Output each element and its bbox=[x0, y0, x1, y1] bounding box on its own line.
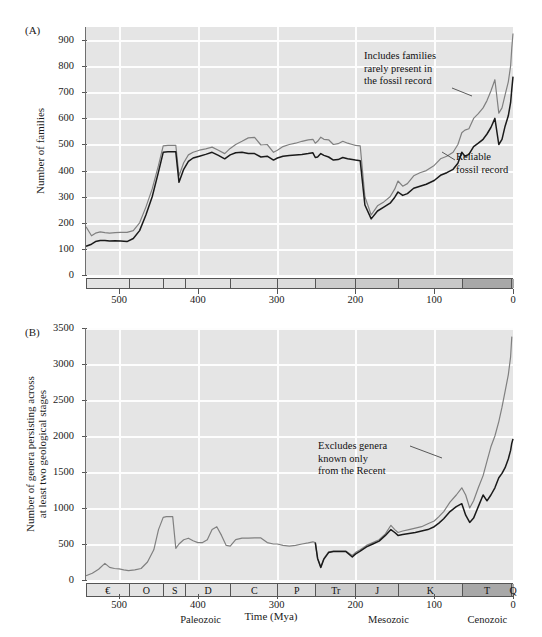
y-axis-tick-label: 3500 bbox=[0, 322, 74, 333]
panel-b: (B) Number of genera persisting acrossat… bbox=[0, 310, 542, 637]
x-axis-tick bbox=[277, 594, 278, 599]
timescale-period-quaternary bbox=[512, 279, 514, 288]
timescale-period-triassic: Tr bbox=[316, 584, 356, 596]
y-axis-tick-label: 200 bbox=[0, 217, 74, 228]
x-axis-tick bbox=[434, 594, 435, 599]
x-axis-tick bbox=[119, 289, 120, 294]
annotation-reliable-fossil-record: Reliablefossil record bbox=[456, 151, 508, 176]
timescale-period-triassic bbox=[316, 279, 356, 288]
x-axis-tick-label: 400 bbox=[178, 294, 218, 305]
x-axis-tick bbox=[198, 289, 199, 294]
x-axis-tick-label: 0 bbox=[493, 294, 533, 305]
x-axis-tick bbox=[513, 594, 514, 599]
x-axis-tick-label: 500 bbox=[99, 294, 139, 305]
x-axis-tick bbox=[277, 289, 278, 294]
y-axis-line bbox=[85, 328, 86, 580]
y-axis-line bbox=[85, 27, 86, 275]
timescale-period-carboniferous bbox=[231, 279, 278, 288]
timescale-period-carboniferous: C bbox=[231, 584, 278, 596]
timescale-period-silurian: S bbox=[164, 584, 186, 596]
x-axis-tick-label: 300 bbox=[257, 599, 297, 610]
x-axis-tick bbox=[434, 289, 435, 294]
timescale-period-devonian: D bbox=[186, 584, 231, 596]
timescale-period-silurian bbox=[164, 279, 186, 288]
x-axis-tick bbox=[513, 289, 514, 294]
y-axis-tick-label: 700 bbox=[0, 86, 74, 97]
timescale-period-ordovician: O bbox=[130, 584, 165, 596]
x-axis-tick-label: 500 bbox=[99, 599, 139, 610]
timescale-period-devonian bbox=[186, 279, 231, 288]
x-axis-tick-label: 400 bbox=[178, 599, 218, 610]
y-axis-tick-label: 800 bbox=[0, 60, 74, 71]
annotation-leader-line bbox=[452, 88, 472, 96]
y-axis-tick-label: 500 bbox=[0, 138, 74, 149]
x-axis-tick-label: 200 bbox=[335, 599, 375, 610]
timescale-period-cretaceous bbox=[399, 279, 463, 288]
y-axis-tick-label: 2000 bbox=[0, 430, 74, 441]
annotation-leader-line bbox=[410, 446, 442, 458]
annotation-leader-line bbox=[442, 152, 455, 160]
annotation-includes-families: Includes familiesrarely present inthe fo… bbox=[364, 50, 436, 88]
annotation-excludes-genera: Excludes generaknown onlyfrom the Recent bbox=[318, 440, 387, 478]
panel-a-geologic-timebar bbox=[86, 278, 513, 289]
y-axis-tick-label: 1000 bbox=[0, 502, 74, 513]
series-line bbox=[86, 337, 512, 576]
y-axis-tick-label: 0 bbox=[0, 269, 74, 280]
panel-b-geologic-timebar: €OSDCPTrJKTQ bbox=[86, 583, 513, 597]
x-axis-tick bbox=[355, 289, 356, 294]
timescale-period-jurassic: J bbox=[356, 584, 399, 596]
timescale-period-cretaceous: K bbox=[399, 584, 463, 596]
x-axis-tick-label: 0 bbox=[493, 599, 533, 610]
series-line bbox=[86, 77, 513, 247]
y-axis-tick-label: 300 bbox=[0, 191, 74, 202]
x-axis-tick bbox=[119, 594, 120, 599]
y-axis-tick-label: 400 bbox=[0, 165, 74, 176]
timescale-period-cambrian bbox=[87, 279, 130, 288]
y-axis-tick-label: 3000 bbox=[0, 358, 74, 369]
x-axis-tick-label: 100 bbox=[414, 599, 454, 610]
series-line bbox=[86, 34, 513, 236]
y-axis-tick-label: 0 bbox=[0, 574, 74, 585]
x-axis-tick-label: 100 bbox=[414, 294, 454, 305]
y-axis-tick-label: 500 bbox=[0, 538, 74, 549]
timescale-period-cambrian: € bbox=[87, 584, 130, 596]
y-axis-tick-label: 2500 bbox=[0, 394, 74, 405]
timescale-period-ordovician bbox=[130, 279, 165, 288]
x-axis-tick-label: 300 bbox=[257, 294, 297, 305]
timescale-period-permian: P bbox=[278, 584, 316, 596]
timescale-period-tertiary bbox=[463, 279, 513, 288]
timescale-period-tertiary: T bbox=[463, 584, 513, 596]
y-axis-tick-label: 900 bbox=[0, 34, 74, 45]
y-axis-tick-label: 1500 bbox=[0, 466, 74, 477]
x-axis-tick bbox=[198, 594, 199, 599]
panel-a: (A) Number of families Includes families… bbox=[0, 0, 542, 310]
timescale-period-jurassic bbox=[356, 279, 399, 288]
y-axis-tick-label: 100 bbox=[0, 243, 74, 254]
x-axis-title: Time (Mya) bbox=[0, 610, 542, 622]
x-axis-tick bbox=[355, 594, 356, 599]
x-axis-tick-label: 200 bbox=[335, 294, 375, 305]
timescale-period-permian bbox=[278, 279, 316, 288]
y-axis-tick-label: 600 bbox=[0, 112, 74, 123]
